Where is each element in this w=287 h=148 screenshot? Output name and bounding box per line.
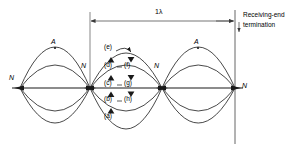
cycle-return-arrow	[116, 48, 131, 52]
step-label-f: (f)	[124, 62, 130, 69]
step-label-g: (g)	[124, 80, 132, 87]
step-label-h: (h)	[124, 96, 132, 103]
antinode-label-right: A	[194, 38, 199, 45]
antinode-dot-right	[197, 47, 199, 49]
node-label-3: N	[242, 82, 247, 89]
step-label-c: (c)	[104, 80, 112, 87]
wavelength-label: 1λ	[155, 8, 162, 15]
step-label-e: (e)	[104, 44, 112, 51]
standing-wave-diagram: N N N N A A 1λ Receiving-end termination…	[0, 0, 287, 148]
step-label-a: (a)	[104, 113, 112, 120]
node-label-2: N	[154, 62, 159, 69]
node-label-1: N	[81, 62, 86, 69]
termination-label-line2: termination	[243, 21, 275, 29]
antinode-label-left: A	[51, 38, 56, 45]
step-label-d: (d)	[104, 62, 112, 69]
node-label-0: N	[9, 74, 14, 81]
label-connectors	[117, 67, 122, 101]
antinode-dot-left	[54, 47, 56, 49]
step-label-b: (b)	[104, 96, 112, 103]
termination-label-line1: Receiving-end	[243, 11, 285, 19]
